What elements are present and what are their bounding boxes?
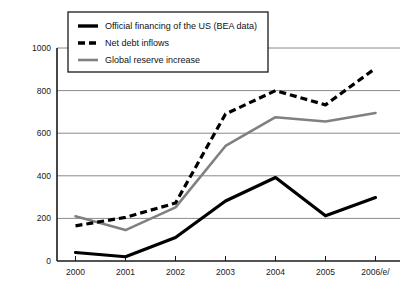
x-tick-label-2006: 2006/e/ xyxy=(361,267,390,277)
y-tick-label-400: 400 xyxy=(37,171,51,181)
legend: Official financing of the US (BEA data) … xyxy=(68,12,268,72)
x-tick-label-2004: 2004 xyxy=(266,267,285,277)
y-tick-label-800: 800 xyxy=(37,86,51,96)
x-tick-label-2005: 2005 xyxy=(316,267,335,277)
x-tick-label-2002: 2002 xyxy=(166,267,185,277)
y-tick-label-0: 0 xyxy=(46,256,51,266)
y-tick-label-600: 600 xyxy=(37,128,51,138)
line-chart: 1000 800 600 400 200 0 2000 2001 2002 20… xyxy=(0,0,416,294)
chart-svg: 1000 800 600 400 200 0 2000 2001 2002 20… xyxy=(0,0,416,294)
y-tick-label-1000: 1000 xyxy=(32,43,51,53)
legend-label-net-debt-inflows: Net debt inflows xyxy=(105,38,170,48)
x-tick-label-2000: 2000 xyxy=(66,267,85,277)
legend-label-official-financing: Official financing of the US (BEA data) xyxy=(105,21,257,31)
y-tick-label-200: 200 xyxy=(37,213,51,223)
x-tick-label-2001: 2001 xyxy=(116,267,135,277)
x-tick-label-2003: 2003 xyxy=(216,267,235,277)
legend-label-global-reserve-increase: Global reserve increase xyxy=(105,55,200,65)
